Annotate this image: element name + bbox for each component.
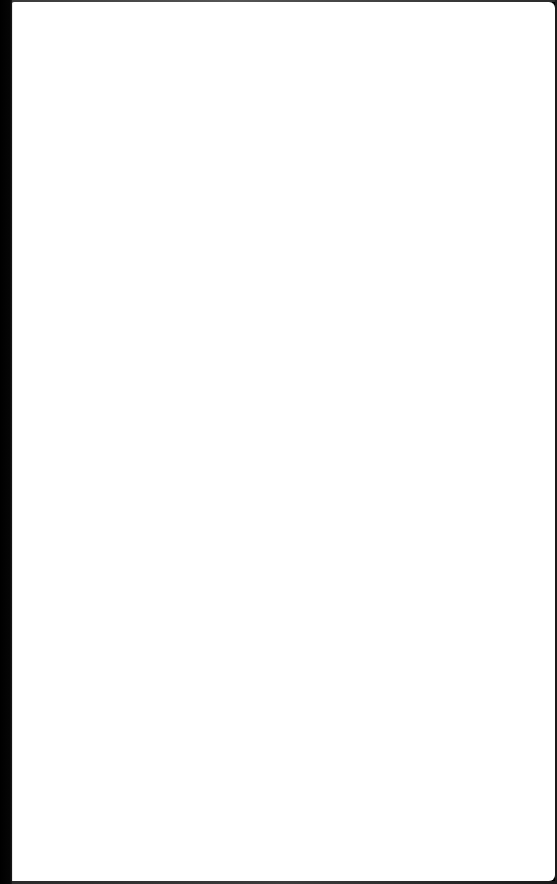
- blank-page: [12, 2, 555, 881]
- background-frame: [0, 0, 557, 884]
- left-border: [0, 0, 12, 884]
- page-content: [12, 2, 555, 881]
